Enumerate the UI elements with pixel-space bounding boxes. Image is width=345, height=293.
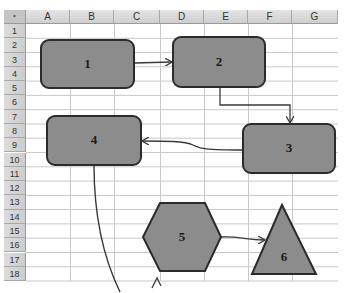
shape-5-label: 5 [143, 229, 221, 245]
connector-1-to-2[interactable] [134, 62, 172, 63]
connector-into-5[interactable] [152, 278, 161, 288]
shape-3-label: 3 [243, 140, 335, 156]
shape-4-label: 4 [47, 132, 141, 148]
spreadsheet: • A B C D E F G 1 2 3 4 5 6 7 8 9 10 11 … [0, 0, 345, 293]
connector-5-to-6[interactable] [221, 237, 265, 240]
shape-6-label: 6 [252, 249, 316, 265]
connector-2-to-3[interactable] [220, 87, 290, 123]
shape-1-label: 1 [41, 56, 134, 72]
connector-3-to-4[interactable] [142, 141, 243, 150]
shape-2-label: 2 [173, 54, 265, 70]
connector-4-down[interactable] [94, 165, 120, 292]
